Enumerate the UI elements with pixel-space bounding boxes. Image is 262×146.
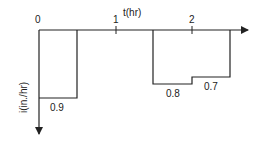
block-label-2: 0.8 [166,88,180,99]
rain-block-2-3 [153,30,230,84]
tick-label-2: 2 [189,14,195,25]
hyetograph-diagram: 0 1 2 t(hr) i(in./hr) 0.9 0.8 0.7 [0,0,262,146]
tick-label-0: 0 [35,14,41,25]
rain-block-1 [39,30,77,98]
block-label-1: 0.9 [50,102,64,113]
tick-label-1: 1 [113,14,119,25]
y-axis-label: i(in./hr) [18,82,29,113]
block-label-3: 0.7 [204,81,218,92]
x-axis-label: t(hr) [123,7,141,18]
